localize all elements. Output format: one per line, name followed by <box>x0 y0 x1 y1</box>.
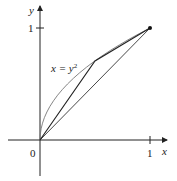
endpoint-dot <box>148 26 152 30</box>
origin-label: 0 <box>30 147 36 159</box>
x-tick-label: 1 <box>147 147 153 159</box>
y-tick-label: 1 <box>28 22 34 34</box>
curve-label-text: x = y <box>50 62 74 74</box>
chord-line <box>40 28 150 140</box>
x-axis-label: x <box>161 145 167 157</box>
curve-label-exponent: 2 <box>74 62 78 70</box>
y-axis-label: y <box>28 4 34 16</box>
diagram-canvas: y 1 0 1 x x = y2 <box>0 0 177 181</box>
curve-label: x = y2 <box>50 62 78 74</box>
